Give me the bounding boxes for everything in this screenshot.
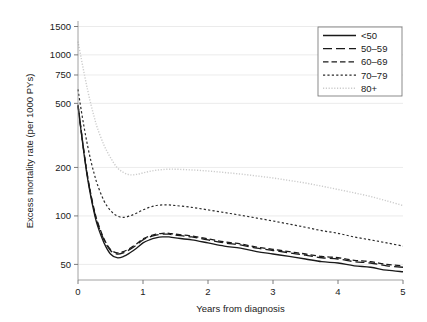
y-tick-label-50: 50 — [60, 259, 71, 270]
y-tick-label-500: 500 — [55, 98, 71, 109]
figure-canvas: 5010020050075010001500012345Years from d… — [0, 0, 427, 322]
excess-mortality-chart: 5010020050075010001500012345Years from d… — [0, 0, 427, 322]
x-tick-label-0: 0 — [75, 286, 80, 297]
y-tick-label-200: 200 — [55, 162, 71, 173]
y-tick-label-750: 750 — [55, 69, 71, 80]
legend-label-<50: <50 — [361, 30, 377, 41]
y-axis-ticks: 5010020050075010001500 — [50, 21, 78, 270]
y-tick-label-100: 100 — [55, 210, 71, 221]
legend-label-50-59: 50–59 — [361, 43, 387, 54]
x-tick-label-3: 3 — [270, 286, 275, 297]
legend-label-70-79: 70–79 — [361, 70, 387, 81]
x-tick-label-1: 1 — [140, 286, 145, 297]
y-axis-title: Excess mortality rate (per 1000 PYs) — [24, 74, 35, 229]
x-tick-label-4: 4 — [335, 286, 340, 297]
x-axis-ticks: 012345 — [75, 280, 405, 297]
x-axis-title: Years from diagnosis — [196, 303, 285, 314]
legend: <5050–5960–6970–7980+ — [318, 27, 402, 96]
top-mask — [0, 0, 427, 22]
legend-label-80+: 80+ — [361, 83, 378, 94]
y-tick-label-1500: 1500 — [50, 21, 71, 32]
y-tick-label-1000: 1000 — [50, 49, 71, 60]
legend-label-60-69: 60–69 — [361, 56, 387, 67]
x-tick-label-2: 2 — [205, 286, 210, 297]
x-tick-label-5: 5 — [400, 286, 405, 297]
legend-box — [318, 27, 402, 96]
